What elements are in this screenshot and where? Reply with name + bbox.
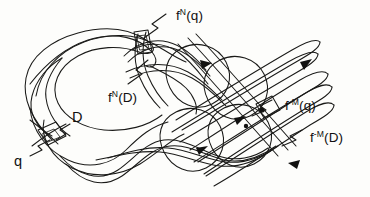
wave-train-lower-1 [60,140,268,176]
figure-canvas: fN(q) fN(D) f-M(q) f-M(D) D q [0,0,370,197]
label-fm-d-sup: -M [314,129,324,139]
label-fn-q-arg: (q) [186,8,203,23]
upper-tangle-group [124,32,226,114]
leader-fn-q [144,14,166,38]
upper-tangle-arc-2 [130,71,226,107]
label-fm-q-sup: -M [289,97,299,107]
tangle-diagram: fN(q) fN(D) f-M(q) f-M(D) D q [0,0,370,197]
label-d: D [72,109,83,125]
label-fm-q: f-M(q) [285,97,316,113]
labels-group: fN(q) fN(D) f-M(q) f-M(D) D q [14,7,343,169]
long-loop-e-back [214,105,334,186]
blob-wave-crossing [30,36,156,84]
arrowhead-mid-right [234,116,246,125]
label-fm-q-arg: (q) [299,98,316,113]
label-fm-d: f-M(D) [310,129,343,145]
label-fn-q: fN(q) [176,7,203,23]
label-fn-d-arg: (D) [118,90,137,105]
blob-wave-upper [36,35,186,96]
intersection-dot-2 [244,124,248,128]
label-q: q [14,153,22,169]
stable-cross-line-1 [188,38,288,150]
arrowhead-lower-right [288,160,300,169]
label-fn-d: fN(D) [108,89,137,105]
homoclinic-point-region [30,120,66,146]
label-fm-d-arg: (D) [324,130,343,145]
